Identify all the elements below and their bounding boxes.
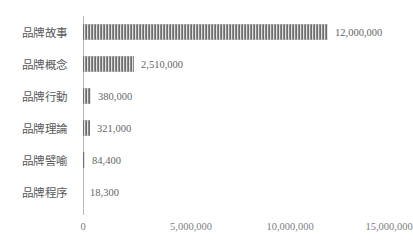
bar-row[interactable]: 品牌譬喻 84,400 (0, 144, 410, 176)
bar-value-label: 321,000 (97, 123, 131, 134)
bar-value-label: 2,510,000 (141, 59, 183, 70)
category-label: 品牌程序 (0, 184, 68, 200)
bar[interactable] (83, 57, 134, 72)
bar[interactable] (83, 153, 85, 168)
bar[interactable] (83, 121, 90, 136)
x-axis-tick-label: 5,000,000 (170, 221, 212, 232)
category-label: 品牌概念 (0, 56, 68, 72)
x-axis-tick-label: 10,000,000 (266, 221, 313, 232)
x-axis-tick-label: 15,000,000 (365, 221, 412, 232)
bar[interactable] (83, 25, 328, 40)
bar-row[interactable]: 品牌故事 12,000,000 (0, 16, 410, 48)
category-label: 品牌行動 (0, 88, 68, 104)
category-label: 品牌故事 (0, 24, 68, 40)
bar-row[interactable]: 品牌理論 321,000 (0, 112, 410, 144)
bar-row[interactable]: 品牌行動 380,000 (0, 80, 410, 112)
category-label: 品牌譬喻 (0, 152, 68, 168)
x-axis-tick-label: 0 (80, 221, 85, 232)
bar-value-label: 84,400 (92, 155, 121, 166)
bar-value-label: 380,000 (98, 91, 132, 102)
bar-row[interactable]: 品牌程序 18,300 (0, 176, 410, 208)
bar-value-label: 12,000,000 (335, 27, 382, 38)
bar-value-label: 18,300 (90, 187, 119, 198)
category-label: 品牌理論 (0, 120, 68, 136)
bar-row[interactable]: 品牌概念 2,510,000 (0, 48, 410, 80)
bar[interactable] (83, 89, 91, 104)
